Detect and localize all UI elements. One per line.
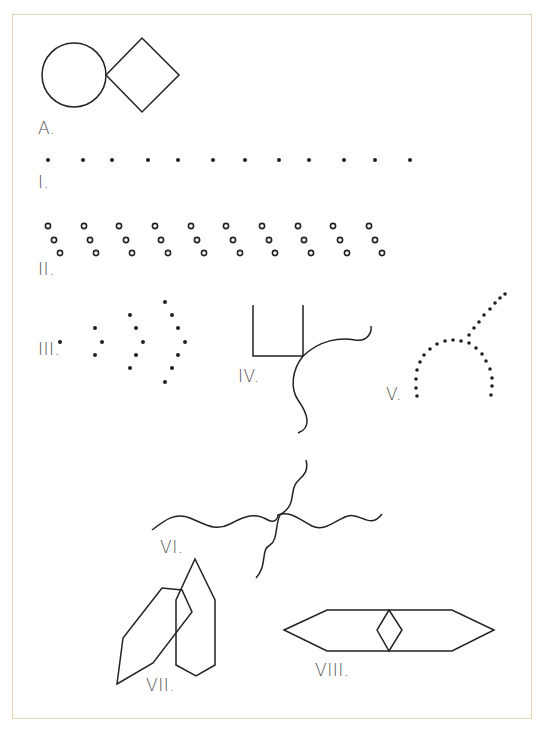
shape-ii bbox=[45, 223, 384, 255]
shape-i bbox=[46, 158, 412, 162]
shape-viii bbox=[284, 610, 494, 651]
figure-canvas bbox=[0, 0, 544, 731]
shape-v bbox=[414, 292, 507, 398]
shape-iv bbox=[253, 305, 371, 433]
circle-shape bbox=[42, 43, 106, 107]
label-vii: VII. bbox=[146, 677, 175, 694]
label-viii: VIII. bbox=[315, 662, 350, 679]
label-ii: II. bbox=[38, 261, 55, 278]
shape-vi bbox=[152, 460, 382, 578]
label-v: V. bbox=[386, 386, 402, 403]
diamond-shape bbox=[106, 38, 179, 112]
shape-a bbox=[42, 38, 179, 112]
shape-iii bbox=[58, 300, 187, 384]
label-iv: IV. bbox=[238, 368, 259, 385]
label-a: A. bbox=[38, 120, 56, 137]
label-vi: VI. bbox=[160, 539, 184, 556]
label-i: I. bbox=[38, 174, 49, 191]
label-iii: III. bbox=[38, 341, 60, 358]
shape-vii bbox=[117, 559, 215, 684]
